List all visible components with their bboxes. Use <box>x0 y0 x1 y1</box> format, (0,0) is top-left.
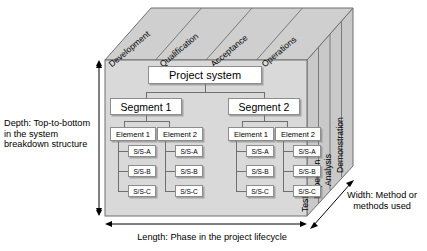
bracket-col4 <box>283 140 284 191</box>
depth-axis-label: Depth: Top-to-bottom in the system break… <box>4 118 92 150</box>
node-s2e2-ss-c[interactable]: S/S-C <box>293 185 321 197</box>
connector-seg1-bus <box>124 121 169 122</box>
bracket-col4-c <box>283 191 293 192</box>
node-label: Project system <box>169 69 241 81</box>
node-s1e2-ss-a[interactable]: S/S-A <box>175 145 203 157</box>
node-label: Element 2 <box>281 130 315 139</box>
node-s1e2-ss-c[interactable]: S/S-C <box>175 185 203 197</box>
node-label: S/S-A <box>251 148 268 155</box>
node-label: S/S-B <box>133 168 150 175</box>
node-label: S/S-C <box>298 188 316 195</box>
method-label-test: Test <box>300 196 310 212</box>
node-segment1-element-2[interactable]: Element 2 <box>157 127 203 141</box>
node-label: S/S-A <box>180 148 197 155</box>
node-label: S/S-B <box>251 168 268 175</box>
connector-root-stem <box>205 84 206 92</box>
bracket-col4-b <box>283 171 293 172</box>
node-label: S/S-A <box>298 148 315 155</box>
node-label: Element 1 <box>234 130 268 139</box>
node-label: Segment 2 <box>239 101 290 113</box>
bracket-col3-a <box>236 151 246 152</box>
bracket-col1-a <box>118 151 128 152</box>
node-label: S/S-C <box>180 188 198 195</box>
bracket-col3-b <box>236 171 246 172</box>
node-s1e2-ss-b[interactable]: S/S-B <box>175 165 203 177</box>
bracket-col1 <box>118 140 119 191</box>
bracket-col2-b <box>165 171 175 172</box>
bracket-col1-b <box>118 171 128 172</box>
node-label: S/S-B <box>180 168 197 175</box>
connector-seg2-down <box>264 114 265 121</box>
node-label: S/S-A <box>133 148 150 155</box>
method-label-analysis: Analysis <box>323 154 333 186</box>
node-segment-2[interactable]: Segment 2 <box>228 98 300 115</box>
bracket-col3 <box>236 140 237 191</box>
width-axis-label: Width: Method or methods used <box>338 190 426 211</box>
node-label: S/S-C <box>251 188 269 195</box>
bracket-col3-c <box>236 191 246 192</box>
node-s2e1-ss-a[interactable]: S/S-A <box>246 145 274 157</box>
node-label: Element 2 <box>163 130 197 139</box>
connector-seg1-down <box>146 114 147 121</box>
bracket-col2 <box>165 140 166 191</box>
node-project-system[interactable]: Project system <box>148 66 262 84</box>
connector-root-bus <box>146 92 264 93</box>
node-label: S/S-B <box>298 168 315 175</box>
connector-seg2-bus <box>242 121 287 122</box>
node-segment2-element-2[interactable]: Element 2 <box>275 127 321 141</box>
node-segment2-element-1[interactable]: Element 1 <box>228 127 274 141</box>
node-s2e2-ss-a[interactable]: S/S-A <box>293 145 321 157</box>
bracket-col2-a <box>165 151 175 152</box>
bracket-col2-c <box>165 191 175 192</box>
node-s1e1-ss-c[interactable]: S/S-C <box>128 185 156 197</box>
node-s1e1-ss-b[interactable]: S/S-B <box>128 165 156 177</box>
node-label: S/S-C <box>133 188 151 195</box>
node-s2e1-ss-c[interactable]: S/S-C <box>246 185 274 197</box>
node-s2e1-ss-b[interactable]: S/S-B <box>246 165 274 177</box>
node-s2e2-ss-b[interactable]: S/S-B <box>293 165 321 177</box>
node-label: Element 1 <box>116 130 150 139</box>
diagram-canvas: Development Qualification Acceptance Ope… <box>0 0 427 251</box>
length-axis-label: Length: Phase in the project lifecycle <box>112 232 312 243</box>
node-segment-1[interactable]: Segment 1 <box>110 98 182 115</box>
node-segment1-element-1[interactable]: Element 1 <box>110 127 156 141</box>
method-label-demonstration: Demonstration <box>335 117 345 173</box>
node-s1e1-ss-a[interactable]: S/S-A <box>128 145 156 157</box>
bracket-col4-a <box>283 151 293 152</box>
node-label: Segment 1 <box>121 101 172 113</box>
bracket-col1-c <box>118 191 128 192</box>
